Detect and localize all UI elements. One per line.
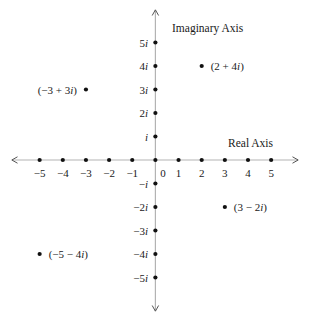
y-tick-label: −5i xyxy=(112,270,148,286)
x-axis-marker-dot xyxy=(223,158,227,162)
x-axis-marker-dot xyxy=(269,158,273,162)
point-dot xyxy=(200,64,204,68)
x-axis-marker-dot xyxy=(200,158,204,162)
y-tick-label: −4i xyxy=(112,246,148,262)
y-axis-marker-dot xyxy=(153,111,157,115)
point-dot xyxy=(223,205,227,209)
y-axis-marker-dot xyxy=(153,275,157,279)
point-dot xyxy=(84,87,88,91)
y-tick-label: 4i xyxy=(112,58,148,74)
axes-canvas xyxy=(0,0,312,319)
real-axis-title: Real Axis xyxy=(228,136,273,150)
y-axis-marker-dot xyxy=(153,181,157,185)
complex-plane-diagram: Imaginary Axis Real Axis −5−4−3−2−101234… xyxy=(0,0,312,319)
x-axis-marker-dot xyxy=(176,158,180,162)
imaginary-axis-title: Imaginary Axis xyxy=(172,21,243,35)
x-axis-marker-dot xyxy=(61,158,65,162)
y-tick-label: 2i xyxy=(112,105,148,121)
x-axis-marker-dot xyxy=(38,158,42,162)
y-tick-label: i xyxy=(112,129,148,145)
y-axis-marker-dot xyxy=(153,40,157,44)
y-axis-marker-dot xyxy=(153,228,157,232)
x-axis-marker-dot xyxy=(107,158,111,162)
x-axis-marker-dot xyxy=(84,158,88,162)
y-axis-marker-dot xyxy=(153,205,157,209)
y-axis-marker-dot xyxy=(153,64,157,68)
y-tick-label: −3i xyxy=(112,223,148,239)
point-label: (3 − 2i) xyxy=(234,199,267,215)
x-axis-marker-dot xyxy=(130,158,134,162)
point-label: (−5 − 4i) xyxy=(49,246,88,262)
y-tick-label: 3i xyxy=(112,82,148,98)
x-axis-marker-dot xyxy=(246,158,250,162)
y-axis-marker-dot xyxy=(153,252,157,256)
point-dot xyxy=(38,252,42,256)
y-axis-marker-dot xyxy=(153,134,157,138)
x-axis-marker-dot xyxy=(153,158,157,162)
x-tick-label: 5 xyxy=(256,165,286,181)
y-axis-marker-dot xyxy=(153,87,157,91)
y-tick-label: 5i xyxy=(112,35,148,51)
y-tick-label: −2i xyxy=(112,199,148,215)
point-label: (2 + 4i) xyxy=(211,58,244,74)
point-label: (−3 + 3i) xyxy=(0,82,77,98)
y-tick-label: −i xyxy=(112,176,148,192)
